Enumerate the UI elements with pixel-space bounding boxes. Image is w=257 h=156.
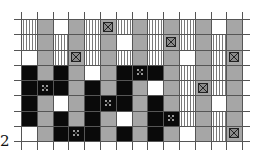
grid-cell <box>84 19 100 34</box>
grid-cell <box>100 50 116 65</box>
grid-cell <box>84 95 100 110</box>
grid-cell <box>53 126 69 141</box>
grid-cell <box>226 95 242 110</box>
grid-cell <box>211 80 227 95</box>
grid-cell <box>211 50 227 65</box>
grid-cell <box>68 19 84 34</box>
grid-cell <box>53 19 69 34</box>
grid-line-vertical <box>147 12 148 150</box>
dotted-marker-icon <box>40 83 50 93</box>
grid-cell <box>68 34 84 49</box>
grid-cell <box>226 65 242 80</box>
grid-line-vertical <box>68 12 69 150</box>
grid-line-vertical <box>53 12 54 150</box>
grid-cell <box>100 34 116 49</box>
grid-cell <box>211 95 227 110</box>
grid-cell <box>68 95 84 110</box>
grid-cell <box>195 126 211 141</box>
grid-cell <box>195 50 211 65</box>
grid-cell <box>116 19 132 34</box>
grid-cell <box>147 19 163 34</box>
grid-cell <box>226 111 242 126</box>
grid-cell <box>163 34 179 49</box>
grid-cell <box>179 80 195 95</box>
grid-cell <box>21 65 37 80</box>
grid-cell <box>132 95 148 110</box>
grid-line-vertical <box>242 12 243 150</box>
grid-cell <box>147 50 163 65</box>
grid-cell <box>84 65 100 80</box>
grid-cell <box>100 111 116 126</box>
grid-cell <box>132 80 148 95</box>
grid-line-vertical <box>195 12 196 150</box>
grid-line-vertical <box>21 12 22 150</box>
grid-cell <box>195 111 211 126</box>
grid-cell <box>211 111 227 126</box>
grid-cell <box>211 34 227 49</box>
crossed-box-icon <box>166 37 176 47</box>
grid-cell <box>147 80 163 95</box>
grid-cell <box>179 34 195 49</box>
dotted-marker-icon <box>103 98 113 108</box>
grid-cell <box>100 126 116 141</box>
grid-cell <box>37 50 53 65</box>
grid-cell <box>37 80 53 95</box>
grid-cell <box>68 65 84 80</box>
grid-cell <box>211 19 227 34</box>
crossed-box-icon <box>71 52 81 62</box>
grid-cell <box>163 80 179 95</box>
dotted-marker-icon <box>166 113 176 123</box>
grid-line-vertical <box>179 12 180 150</box>
grid-cell <box>179 19 195 34</box>
grid-cell <box>68 50 84 65</box>
grid-cell <box>147 126 163 141</box>
grid-cell <box>226 50 242 65</box>
grid-cell <box>21 34 37 49</box>
grid-line-vertical <box>132 12 133 150</box>
grid-cell <box>100 95 116 110</box>
crossed-box-icon <box>229 52 239 62</box>
grid-cell <box>132 111 148 126</box>
grid-cell <box>163 111 179 126</box>
grid-cell <box>116 126 132 141</box>
grid-cell <box>179 111 195 126</box>
grid-cell <box>53 65 69 80</box>
grid-cell <box>116 50 132 65</box>
grid-cell <box>195 80 211 95</box>
grid-line-vertical <box>37 12 38 150</box>
grid-cell <box>68 111 84 126</box>
grid-cell <box>226 80 242 95</box>
grid-cell <box>211 65 227 80</box>
dotted-marker-icon <box>135 67 145 77</box>
grid-cell <box>195 65 211 80</box>
grid-cell <box>163 19 179 34</box>
grid-cell <box>132 126 148 141</box>
grid-cell <box>84 50 100 65</box>
grid-cell <box>147 111 163 126</box>
grid-cell <box>132 65 148 80</box>
grid-cell <box>84 126 100 141</box>
grid-cell <box>100 65 116 80</box>
grid-cell <box>21 50 37 65</box>
grid-cell <box>116 95 132 110</box>
grid-cell <box>37 19 53 34</box>
grid-cell <box>179 95 195 110</box>
grid-cell <box>84 111 100 126</box>
grid-cell <box>53 80 69 95</box>
grid-cell <box>21 111 37 126</box>
grid-cell <box>21 80 37 95</box>
grid-cell <box>132 34 148 49</box>
grid-cell <box>195 19 211 34</box>
grid-cell <box>37 34 53 49</box>
grid-cell <box>21 95 37 110</box>
grid-line-vertical <box>211 12 212 150</box>
grid-cell <box>147 95 163 110</box>
grid-cell <box>226 19 242 34</box>
grid-cell <box>84 80 100 95</box>
grid-cell <box>37 126 53 141</box>
crossed-box-icon <box>198 83 208 93</box>
row-label: 2 <box>0 134 10 149</box>
grid-cell <box>179 50 195 65</box>
grid-cell <box>68 80 84 95</box>
grid-cell <box>195 34 211 49</box>
